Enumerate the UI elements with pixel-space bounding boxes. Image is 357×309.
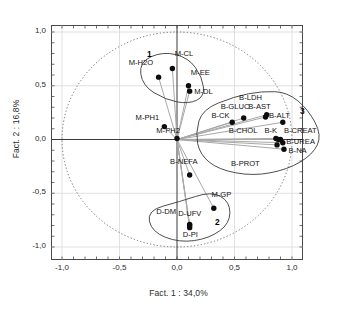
x-tick-label: 1,0 [280, 263, 304, 272]
x-tick-label: 0,5 [223, 263, 247, 272]
point-label-b-urea: B-UREA [286, 137, 315, 146]
x-tick-label: -1,0 [50, 263, 74, 272]
y-tick-label: 0,0 [20, 134, 46, 143]
cluster-label-1: 1 [147, 49, 152, 59]
point-label-d-dm: D-DM [156, 207, 176, 216]
x-tick-label: 0,0 [165, 263, 189, 272]
point-label-d-ufv: D-UFV [178, 209, 201, 218]
point-label-b-alt: B-ALT [269, 111, 290, 120]
point-label-m-ph1: M-PH1 [136, 113, 160, 122]
point-label-m-cl: M-CL [175, 49, 194, 58]
point-label-d-pi: D-PI [183, 230, 198, 239]
point-label-m-ph2: M-PH2 [156, 126, 180, 135]
point-label-b-ast: B-AST [248, 102, 270, 111]
point-label-m-ee: M-EE [191, 68, 210, 77]
point-label-b-k: B-K [264, 126, 277, 135]
point-label-b-prot: B-PROT [231, 159, 260, 168]
pca-biplot-figure: Fact. 1 : 34,0% Fact. 2 : 16,8% M-H2OM-C… [0, 0, 357, 309]
point-label-b-ldh: B-LDH [239, 93, 262, 102]
point-label-m-dl: M-DL [194, 87, 213, 96]
point-label-b-nefa: B-NEFA [170, 157, 197, 166]
point-label-m-h2o: M-H2O [129, 58, 153, 67]
point-label-m-gp: M-GP [212, 190, 232, 199]
point-label-b-gluc: B-GLUC [221, 102, 250, 111]
cluster-label-3: 3 [300, 106, 305, 116]
y-tick-label: 1,0 [20, 26, 46, 35]
point-label-b-chol: B-CHOL [229, 126, 258, 135]
point-label-b-creat: B-CREAT [284, 126, 317, 135]
y-tick-label: 0,5 [20, 80, 46, 89]
point-label-b-na: B-NA [289, 146, 307, 155]
x-tick-label: -0,5 [108, 263, 132, 272]
x-axis-title: Fact. 1 : 34,0% [0, 288, 357, 298]
cluster-label-2: 2 [215, 217, 220, 227]
point-label-b-ck: B-CK [212, 111, 230, 120]
y-tick-label: -0,5 [20, 187, 46, 196]
y-tick-label: -1,0 [20, 241, 46, 250]
